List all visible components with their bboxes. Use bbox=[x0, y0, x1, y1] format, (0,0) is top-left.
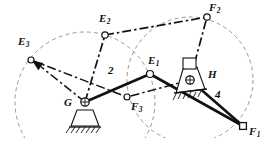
joint-F3 bbox=[124, 94, 130, 100]
dashdot-link-G-E2 bbox=[85, 35, 105, 102]
label-F3: F3 bbox=[131, 101, 142, 114]
linkage-diagram-svg bbox=[0, 0, 273, 148]
joint-F2 bbox=[204, 14, 210, 20]
figure-canvas: E1 E2 E3 F1 F2 F3 G H 2 4 bbox=[0, 0, 273, 148]
solid-link-2-G-E1 bbox=[85, 74, 150, 102]
label-H: H bbox=[208, 69, 217, 80]
dashdot-link-E2-F2 bbox=[105, 17, 207, 35]
dashdot-link-G-E3 bbox=[40, 66, 85, 102]
label-G: G bbox=[64, 97, 72, 108]
label-F1: F1 bbox=[249, 126, 260, 139]
label-E1: E1 bbox=[148, 55, 159, 68]
joint-E3 bbox=[28, 57, 34, 63]
ground-pivot-H bbox=[173, 58, 207, 100]
joint-F1 bbox=[240, 123, 247, 130]
joint-E2 bbox=[102, 32, 108, 38]
label-link-4: 4 bbox=[215, 89, 221, 100]
label-F2: F2 bbox=[209, 2, 220, 15]
label-E2: E2 bbox=[99, 13, 110, 26]
arc-e-path bbox=[15, 32, 155, 148]
label-E3: E3 bbox=[18, 36, 29, 49]
label-link-2: 2 bbox=[108, 65, 114, 76]
joint-E1 bbox=[147, 71, 154, 78]
